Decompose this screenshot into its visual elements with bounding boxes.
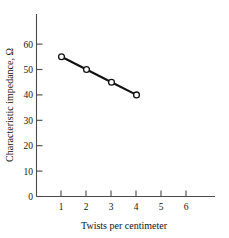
y-tick-label-30: 30 [24, 116, 34, 126]
y-tick-label-50: 50 [24, 65, 34, 75]
data-point [134, 92, 140, 98]
x-axis-title: Twists per centimeter [81, 220, 168, 231]
data-point [109, 79, 115, 85]
data-series-line [62, 57, 137, 95]
y-tick-label-20: 20 [24, 141, 34, 151]
x-tick-label-4: 4 [134, 202, 139, 212]
x-tick-label-1: 1 [59, 202, 64, 212]
data-point [84, 67, 90, 73]
y-tick-label-10: 10 [24, 167, 34, 177]
plot-area: 0 10 20 30 40 50 60 1 2 3 4 5 6 Twists p… [0, 0, 229, 238]
y-axis-title: Characteristic impedance, Ω [4, 48, 15, 162]
x-tick-label-2: 2 [84, 202, 89, 212]
chart-figure: 0 10 20 30 40 50 60 1 2 3 4 5 6 Twists p… [0, 0, 229, 238]
y-tick-label-40: 40 [24, 90, 34, 100]
x-tick-label-3: 3 [109, 202, 114, 212]
y-tick-label-60: 60 [24, 40, 34, 50]
x-tick-label-5: 5 [159, 202, 164, 212]
data-point [59, 54, 65, 60]
x-tick-label-6: 6 [184, 202, 189, 212]
y-tick-label-0: 0 [28, 192, 33, 202]
